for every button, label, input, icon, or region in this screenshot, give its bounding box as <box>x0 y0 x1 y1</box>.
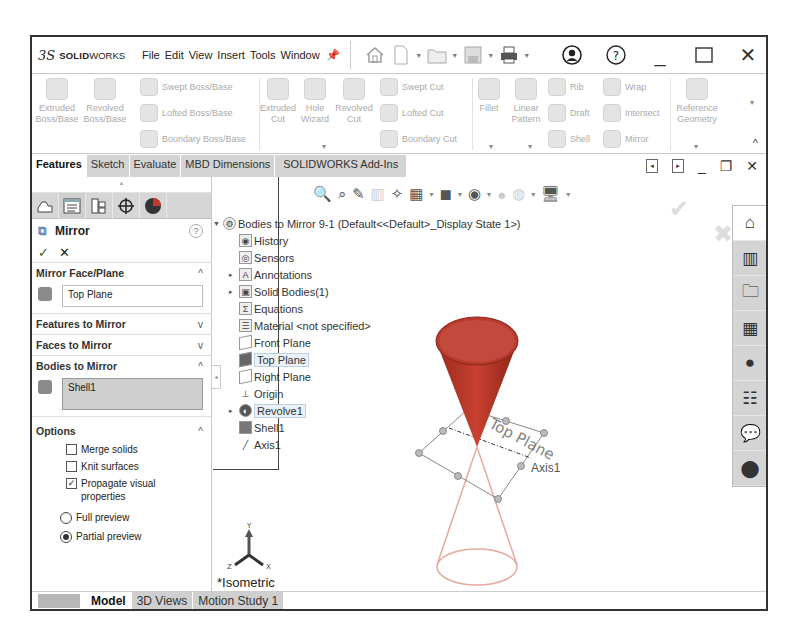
new-dropdown-icon[interactable]: ▾ <box>417 51 421 60</box>
tree-item-right-plane[interactable]: Right Plane <box>213 368 520 385</box>
mirror-plane-selection-box[interactable]: Top Plane <box>62 285 203 307</box>
tab-mbd-dimensions[interactable]: MBD Dimensions <box>181 155 275 177</box>
tree-item-top-plane[interactable]: Top Plane <box>213 351 520 368</box>
menu-view[interactable]: View <box>189 49 213 61</box>
menu-window[interactable]: Window <box>281 49 320 61</box>
pin-icon[interactable]: 📌 <box>326 49 340 62</box>
chevron-down-icon[interactable]: v <box>198 319 203 330</box>
3d-experience-icon[interactable]: ⬤ <box>733 451 767 486</box>
boundary-cut-button[interactable]: Boundary Cut <box>380 128 457 150</box>
intersect-button[interactable]: Intersect <box>603 102 660 124</box>
menu-insert[interactable]: Insert <box>217 49 245 61</box>
tree-item-origin[interactable]: ⊥Origin <box>213 385 520 402</box>
menu-tools[interactable]: Tools <box>250 49 276 61</box>
checkbox-unchecked-icon[interactable] <box>66 444 77 455</box>
expand-icon[interactable]: ▸ <box>229 288 233 296</box>
cancel-button[interactable]: ✕ <box>59 245 70 260</box>
menu-edit[interactable]: Edit <box>165 49 184 61</box>
hole-wizard-button[interactable]: Hole Wizard <box>298 78 332 125</box>
tree-item-shell1[interactable]: Shell1 <box>213 419 520 436</box>
bodies-selection-box[interactable]: Shell1 <box>62 378 203 410</box>
feature-manager-tab-icon[interactable] <box>32 193 59 219</box>
tree-item-annotations[interactable]: ▸ AAnnotations <box>213 266 520 283</box>
options-header[interactable]: Options ^ <box>32 421 211 441</box>
tree-item-equations[interactable]: ΣEquations <box>213 300 520 317</box>
tab-features[interactable]: Features <box>32 155 87 177</box>
expand-icon[interactable]: ▸ <box>229 407 233 415</box>
pattern-dropdown-icon[interactable]: ▾ <box>528 142 532 151</box>
graphics-area[interactable]: 🔍 ⌕ ✎ ▥ ✧ ▦ ▾ ◼ ▾ ◉ ▾ ● ◍ ▾ 🖥 ▾ <box>213 177 768 591</box>
collapse-left-icon[interactable]: ◂ <box>646 159 658 173</box>
extruded-cut-button[interactable]: Extruded Cut <box>260 78 296 125</box>
fillet-button[interactable]: Fillet <box>474 78 504 114</box>
forum-icon[interactable]: 💬 <box>733 416 767 451</box>
tab-evaluate[interactable]: Evaluate <box>130 155 182 177</box>
revolved-boss-button[interactable]: Revolved Boss/Base <box>82 78 128 125</box>
save-icon[interactable] <box>463 44 483 66</box>
tree-item-material[interactable]: ☰Material <not specified> <box>213 317 520 334</box>
chevron-up-icon[interactable]: ^ <box>198 361 203 372</box>
appearances-scenes-icon[interactable]: ● <box>733 346 767 381</box>
ok-button[interactable]: ✓ <box>38 245 49 260</box>
panel-grip[interactable]: ▲ <box>32 177 211 193</box>
new-document-icon[interactable] <box>391 44 411 66</box>
tab-scroll-arrows[interactable] <box>38 594 80 608</box>
minimize-button[interactable]: _ <box>648 41 672 69</box>
tab-sketch[interactable]: Sketch <box>87 155 130 177</box>
mirror-face-plane-header[interactable]: Mirror Face/Plane ^ <box>32 263 211 283</box>
features-to-mirror-header[interactable]: Features to Mirror v <box>32 314 211 334</box>
rib-button[interactable]: Rib <box>548 76 584 98</box>
radio-unselected-icon[interactable] <box>60 512 72 524</box>
doc-restore-button[interactable]: ❐ <box>720 158 733 174</box>
mirror-button[interactable]: Mirror <box>603 128 649 150</box>
linear-pattern-button[interactable]: Linear Pattern <box>506 78 546 125</box>
open-folder-icon[interactable] <box>427 44 447 66</box>
partial-preview-radio[interactable]: Partial preview <box>32 528 211 545</box>
file-explorer-icon[interactable]: 🗀 <box>733 276 767 311</box>
custom-properties-icon[interactable]: ☷ <box>733 381 767 416</box>
save-dropdown-icon[interactable]: ▾ <box>489 51 493 60</box>
draft-button[interactable]: Draft <box>548 102 590 124</box>
propagate-visual-checkbox[interactable]: ✓ Propagate visual properties <box>32 475 211 505</box>
doc-close-button[interactable]: ✕ <box>746 158 758 174</box>
doc-minimize-button[interactable]: _ <box>698 158 706 174</box>
dimxpert-manager-tab-icon[interactable] <box>113 193 140 219</box>
view-palette-icon[interactable]: ▦ <box>733 311 767 346</box>
chevron-up-icon[interactable]: ^ <box>198 268 203 279</box>
shell-button[interactable]: Shell <box>548 128 590 150</box>
full-preview-radio[interactable]: Full preview <box>32 509 211 526</box>
tree-item-front-plane[interactable]: Front Plane <box>213 334 520 351</box>
configuration-manager-tab-icon[interactable] <box>86 193 113 219</box>
home-icon[interactable] <box>365 44 385 66</box>
tab-solidworks-add-ins[interactable]: SOLIDWORKS Add-Ins <box>275 155 407 177</box>
close-button[interactable]: ✕ <box>736 41 760 69</box>
swept-cut-button[interactable]: Swept Cut <box>380 76 444 98</box>
maximize-button[interactable] <box>692 41 716 69</box>
chevron-down-icon[interactable]: v <box>198 340 203 351</box>
expand-icon[interactable]: ▸ <box>229 271 233 279</box>
reference-geometry-button[interactable]: Reference Geometry <box>672 78 722 125</box>
checkbox-unchecked-icon[interactable] <box>66 461 77 472</box>
user-icon[interactable] <box>560 41 584 69</box>
wrap-button[interactable]: Wrap <box>603 76 646 98</box>
open-dropdown-icon[interactable]: ▾ <box>453 51 457 60</box>
property-manager-tab-icon[interactable] <box>59 193 86 219</box>
extruded-boss-button[interactable]: Extruded Boss/Base <box>34 78 80 125</box>
hole-wizard-dropdown-icon[interactable]: ▾ <box>322 142 326 151</box>
tab-motion-study-1[interactable]: Motion Study 1 <box>193 592 284 611</box>
tab-3d-views[interactable]: 3D Views <box>132 592 193 611</box>
confirm-ok-icon[interactable]: ✔ <box>669 195 689 223</box>
tree-item-axis1[interactable]: ╱Axis1 <box>213 436 520 453</box>
chevron-up-icon[interactable]: ^ <box>198 426 203 437</box>
merge-solids-checkbox[interactable]: Merge solids <box>32 441 211 458</box>
reference-dropdown-icon[interactable]: ▾ <box>694 142 698 151</box>
expand-icon[interactable]: ▼ <box>213 220 220 227</box>
lofted-boss-button[interactable]: Lofted Boss/Base <box>140 102 233 124</box>
radio-selected-icon[interactable] <box>60 531 72 543</box>
ribbon-overflow-icon[interactable]: ▾ <box>750 98 754 107</box>
lofted-cut-button[interactable]: Lofted Cut <box>380 102 444 124</box>
boundary-boss-button[interactable]: Boundary Boss/Base <box>140 128 246 150</box>
solidworks-logo[interactable]: 3S SOLIDWORKS <box>38 48 138 63</box>
tree-item-solid-bodies[interactable]: ▸ ▣Solid Bodies(1) <box>213 283 520 300</box>
tree-item-revolve1[interactable]: ▸ ◐Revolve1 <box>213 402 520 419</box>
